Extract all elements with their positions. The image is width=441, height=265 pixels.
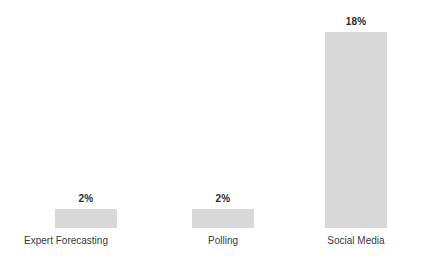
bar-rect[interactable] bbox=[325, 32, 387, 228]
bar-group: 18% bbox=[325, 0, 387, 228]
category-axis: Expert Forecasting Polling Social Media bbox=[0, 234, 441, 254]
bar-column[interactable]: 2% bbox=[192, 194, 254, 228]
bar-group: 2% bbox=[55, 0, 117, 228]
bar-value-label: 2% bbox=[216, 194, 231, 204]
bar-value-label: 2% bbox=[79, 194, 94, 204]
bar-rect[interactable] bbox=[192, 209, 254, 228]
bar-rect[interactable] bbox=[55, 209, 117, 228]
category-label-social-media: Social Media bbox=[281, 234, 431, 248]
bar-column[interactable]: 18% bbox=[325, 17, 387, 228]
plot-area: 2% 2% 18% bbox=[0, 0, 441, 228]
bar-column[interactable]: 2% bbox=[55, 194, 117, 228]
category-label-expert-forecasting: Expert Forecasting bbox=[0, 234, 141, 248]
bar-value-label: 18% bbox=[346, 17, 367, 27]
bar-group: 2% bbox=[192, 0, 254, 228]
category-label-polling: Polling bbox=[148, 234, 298, 248]
bar-chart: 2% 2% 18% Expert Forecasting Polling Soc… bbox=[0, 0, 441, 265]
